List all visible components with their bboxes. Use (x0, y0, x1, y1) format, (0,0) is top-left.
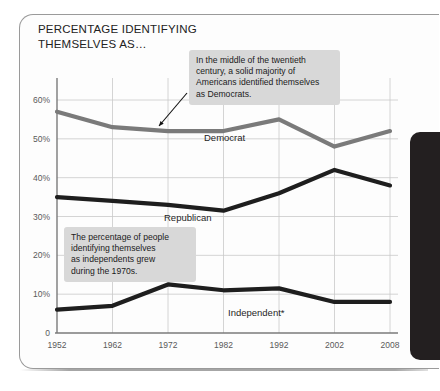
y-tick-label: 40% (33, 173, 50, 183)
y-tick-label: 0 (45, 328, 50, 338)
y-tick-label: 30% (33, 212, 50, 222)
x-tick-label: 1992 (270, 340, 289, 350)
x-tick-label: 1972 (159, 340, 178, 350)
annotation-callout-democrat: In the middle of the twentieth century, … (189, 50, 340, 105)
y-tick-label: 20% (33, 250, 50, 260)
x-tick-label: 2008 (381, 340, 400, 350)
annotation-callout-independent: The percentage of people identifying the… (64, 227, 196, 282)
chart-gridlines (57, 78, 398, 333)
y-tick-label: 60% (33, 95, 50, 105)
x-tick-label: 1952 (48, 340, 67, 350)
y-tick-label: 10% (33, 289, 50, 299)
x-tick-label: 1982 (214, 340, 233, 350)
x-tick-label: 1962 (103, 340, 122, 350)
chart-axes (55, 78, 398, 333)
x-tick-label: 2002 (325, 340, 344, 350)
y-axis-tick-labels: 010%20%30%40%50%60% (33, 95, 50, 338)
y-tick-label: 50% (33, 134, 50, 144)
x-axis-tick-labels: 1952196219721982199220022008 (48, 340, 400, 350)
